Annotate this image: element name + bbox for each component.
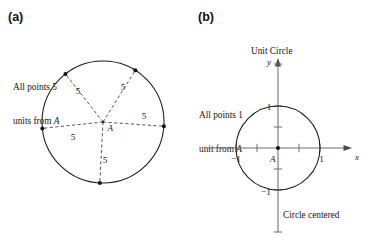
panel-b-x-axis-label: x — [354, 152, 359, 162]
panel-a-boundary-points — [40, 68, 166, 185]
panel-a-radius-label-2: 5 — [121, 82, 126, 92]
panel-a-point-2 — [133, 68, 137, 72]
figure-graphics: A 55555 A x y −111−1 — [0, 0, 381, 239]
panel-a-center-point — [102, 121, 104, 123]
panel-b-y-axis-arrow — [275, 58, 281, 67]
panel-b-origin-point — [276, 146, 280, 150]
panel-a-center-label: A — [107, 123, 114, 133]
panel-a-radius-3 — [42, 122, 103, 128]
panel-a-radius-label-4: 5 — [142, 111, 147, 121]
panel-b-y-tick-label-neg1: −1 — [261, 187, 271, 197]
panel-a-radius-2 — [103, 70, 135, 122]
panel-b-y-tick-label-pos1: 1 — [267, 102, 272, 112]
panel-a-radius-1 — [65, 74, 103, 122]
panel-b-x-tick-label-neg1: −1 — [231, 154, 241, 164]
panel-a-radius-5 — [100, 122, 103, 183]
panel-b-x-tick-label-pos1: 1 — [319, 154, 324, 164]
panel-a-point-1 — [63, 72, 67, 76]
panel-a-point-5 — [98, 181, 102, 185]
panel-a-radius-label-1: 5 — [76, 86, 81, 96]
panel-a-point-4 — [162, 124, 166, 128]
panel-a-point-3 — [40, 126, 44, 130]
panel-b-y-axis-label: y — [266, 57, 271, 67]
panel-b-diagram: A x y −111−1 — [208, 57, 359, 232]
figure-canvas: (a) (b) All points 5 units from A Unit C… — [0, 0, 381, 239]
panel-b-x-axis-arrow — [344, 145, 353, 151]
panel-a-diagram: A 55555 — [40, 61, 166, 185]
panel-b-origin-label: A — [269, 154, 276, 164]
panel-a-radius-label-3: 5 — [71, 132, 76, 142]
panel-a-radius-label-5: 5 — [103, 155, 108, 165]
